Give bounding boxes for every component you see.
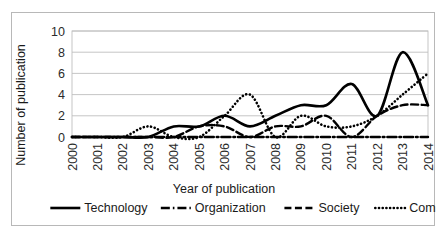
legend-label-technology: Technology [84, 201, 148, 215]
x-axis-tick-labels: 2000200120022003200420052006200720082009… [66, 143, 436, 171]
x-tick-label: 2001 [91, 143, 105, 171]
legend-label-organization: Organization [195, 201, 266, 215]
x-axis-title: Year of publication [173, 182, 275, 196]
x-tick-label: 2006 [218, 143, 232, 171]
chart-frame: 0246810 20002001200220032004200520062007… [11, 12, 435, 226]
series-line-society [72, 104, 428, 137]
x-tick-label: 2005 [193, 143, 207, 171]
y-tick-label: 8 [58, 46, 65, 60]
y-tick-label: 6 [58, 67, 65, 81]
x-tick-label: 2002 [116, 143, 130, 171]
x-tick-label: 2010 [320, 143, 334, 171]
x-tick-label: 2008 [269, 143, 283, 171]
x-tick-label: 2004 [167, 143, 181, 171]
x-tick-label: 2014 [422, 143, 436, 171]
y-tick-label: 2 [58, 109, 65, 123]
plot-area-border [72, 31, 428, 137]
x-tick-label: 2011 [345, 143, 359, 170]
x-tick-label: 2012 [371, 143, 385, 171]
x-tick-label: 2007 [244, 143, 258, 171]
x-tick-label: 2009 [294, 143, 308, 171]
y-tick-label: 10 [51, 25, 65, 39]
legend-label-combined: Combined [409, 201, 436, 215]
x-tick-label: 2003 [142, 143, 156, 171]
x-tick-label: 2013 [396, 143, 410, 171]
chart-legend: TechnologyOrganizationSocietyCombined [50, 201, 436, 215]
y-axis-title: Number of publication [14, 44, 28, 166]
data-series-group [72, 52, 428, 139]
y-tick-label: 0 [58, 131, 65, 145]
legend-label-society: Society [318, 201, 360, 215]
series-line-combined [72, 73, 428, 139]
gridlines [72, 31, 428, 137]
y-axis-tick-labels: 0246810 [51, 25, 65, 145]
x-tick-label: 2000 [66, 143, 80, 171]
y-tick-label: 4 [58, 88, 65, 102]
publications-line-chart: 0246810 20002001200220032004200520062007… [12, 13, 436, 227]
